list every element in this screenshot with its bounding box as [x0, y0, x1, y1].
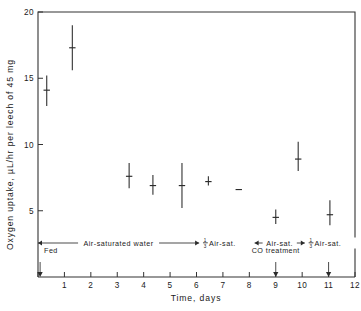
fraction-numerator: 1 [310, 238, 313, 243]
x-tick-label: 7 [220, 281, 225, 290]
condition-bar-label: Air-saturated water [83, 239, 153, 248]
fraction-numerator: 1 [204, 238, 207, 243]
x-tick-label: 1 [62, 281, 67, 290]
event-label: CO treatment [252, 246, 300, 255]
x-tick-label: 11 [324, 281, 333, 290]
y-tick-label: 10 [24, 141, 34, 150]
chart-figure: 5101520 123456789101112 Air-saturated wa… [0, 0, 361, 311]
x-tick-label: 9 [273, 281, 278, 290]
y-tick-label: 15 [24, 74, 34, 83]
x-tick-label: 3 [115, 281, 120, 290]
condition-bar: 13Air-sat. [308, 238, 357, 249]
fraction-denominator: 3 [204, 244, 207, 249]
condition-bar-label: Air-sat. [209, 239, 236, 248]
x-tick-label: 2 [88, 281, 93, 290]
condition-bar-label: Air-sat. [315, 239, 342, 248]
chart-background [0, 0, 361, 311]
x-tick-label: 10 [297, 281, 307, 290]
event-label: Fed [44, 246, 58, 255]
y-axis-title: Oxygen uptake, µL/hr per leech of 45 mg [5, 59, 15, 250]
oxygen-uptake-scatter-chart: 5101520 123456789101112 Air-saturated wa… [0, 0, 361, 311]
condition-bar: 13Air-sat. [202, 238, 251, 249]
x-tick-label: 4 [141, 281, 146, 290]
y-tick-label: 5 [29, 207, 34, 216]
fraction-denominator: 3 [310, 244, 313, 249]
x-axis-title: Time, days [171, 293, 222, 303]
x-tick-label: 12 [350, 281, 360, 290]
y-tick-label: 20 [24, 8, 34, 17]
x-tick-label: 5 [168, 281, 173, 290]
x-tick-label: 6 [194, 281, 199, 290]
x-tick-label: 8 [247, 281, 252, 290]
